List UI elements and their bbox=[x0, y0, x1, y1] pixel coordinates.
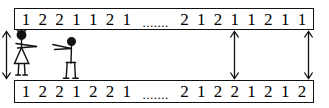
sequence-comparison-diagram: 1 2 2 1 1 2 1 ....... 2 1 2 1 1 2 1 1 1 … bbox=[0, 0, 329, 108]
bottom-sequence-digit: 2 bbox=[52, 83, 68, 100]
bottom-sequence-digit: 2 bbox=[227, 83, 243, 100]
bottom-sequence-digit: 1 bbox=[119, 83, 135, 100]
bottom-sequence-digit: 2 bbox=[85, 83, 101, 100]
bottom-sequence-digit: 1 bbox=[68, 83, 84, 100]
top-sequence-digit: 2 bbox=[210, 11, 226, 28]
top-sequence-digit: 2 bbox=[35, 11, 51, 28]
top-sequence-digit: 2 bbox=[52, 11, 68, 28]
bottom-sequence-digit: 2 bbox=[35, 83, 51, 100]
comparison-arrow-2 bbox=[228, 30, 241, 80]
top-sequence-digit: 1 bbox=[68, 11, 84, 28]
top-sequence-digit: 1 bbox=[277, 11, 293, 28]
bottom-sequence-digit: 2 bbox=[102, 83, 118, 100]
bottom-sequence-digit: 2 bbox=[260, 83, 276, 100]
top-sequence-digit: 2 bbox=[260, 11, 276, 28]
top-sequence-digit: 1 bbox=[85, 11, 101, 28]
top-sequence-ellipsis: ....... bbox=[136, 16, 176, 29]
bottom-sequence-ellipsis: ....... bbox=[136, 88, 176, 101]
bottom-sequence-digit: 1 bbox=[18, 83, 34, 100]
bottom-sequence-digit: 1 bbox=[193, 83, 209, 100]
bottom-sequence-strip: 1 2 2 1 2 2 1 ....... 2 1 2 2 1 2 1 2 bbox=[14, 80, 314, 103]
bottom-sequence-digit: 2 bbox=[176, 83, 192, 100]
top-sequence-digit: 1 bbox=[119, 11, 135, 28]
person-man-pointing-icon bbox=[52, 36, 88, 83]
bottom-sequence-digit: 1 bbox=[277, 83, 293, 100]
bottom-sequence-digit: 2 bbox=[294, 83, 310, 100]
top-sequence-digit: 2 bbox=[176, 11, 192, 28]
top-sequence-digit: 1 bbox=[18, 11, 34, 28]
top-sequence-digit: 1 bbox=[294, 11, 310, 28]
person-woman-pointing-icon bbox=[12, 29, 50, 79]
top-sequence-digit: 1 bbox=[193, 11, 209, 28]
top-sequence-digit: 1 bbox=[244, 11, 260, 28]
bottom-sequence-digit: 1 bbox=[244, 83, 260, 100]
top-sequence-digit: 2 bbox=[102, 11, 118, 28]
comparison-arrow-3 bbox=[302, 30, 315, 80]
bottom-sequence-digit: 2 bbox=[210, 83, 226, 100]
top-sequence-digit: 1 bbox=[227, 11, 243, 28]
top-sequence-strip: 1 2 2 1 1 2 1 ....... 2 1 2 1 1 2 1 1 bbox=[14, 8, 314, 30]
